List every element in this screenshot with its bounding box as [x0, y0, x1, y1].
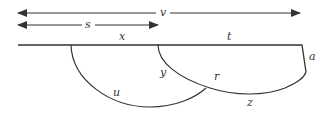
arrow-s: s [18, 18, 158, 31]
label-t: t [227, 30, 232, 43]
arc-yrz [158, 45, 306, 94]
label-z: z [246, 96, 253, 109]
label-v: v [160, 6, 167, 19]
arrow-v: v [18, 6, 300, 19]
label-a: a [309, 50, 316, 63]
label-s: s [85, 18, 91, 31]
label-y: y [159, 66, 167, 79]
label-x: x [119, 30, 126, 43]
arc-u [71, 45, 206, 107]
geometry-diagram: v s x t a u y r z [0, 0, 330, 115]
label-r: r [214, 70, 220, 83]
label-u: u [113, 86, 120, 99]
